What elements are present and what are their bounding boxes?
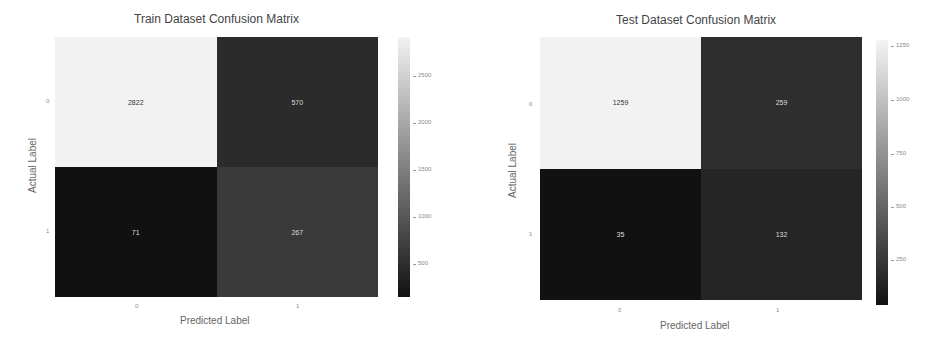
test-y-tick-1: 1 <box>529 231 532 237</box>
test-x-axis-label: Predicted Label <box>660 320 730 331</box>
train-cell-fn: 71 <box>55 167 217 297</box>
train-cbar-tick: 2500 <box>418 72 431 78</box>
test-cell-fn: 35 <box>540 169 701 301</box>
train-x-tick-1: 1 <box>296 303 299 309</box>
train-cell-tn: 2822 <box>55 37 217 167</box>
train-cell-value: 2822 <box>128 99 144 106</box>
test-cell-tn: 1259 <box>540 37 701 169</box>
train-colorbar <box>398 37 410 297</box>
test-cell-value: 259 <box>776 99 788 106</box>
train-confusion-matrix-panel: Train Dataset Confusion Matrix Actual La… <box>0 0 460 343</box>
train-chart-title: Train Dataset Confusion Matrix <box>134 12 299 26</box>
train-cell-value: 267 <box>291 229 303 236</box>
train-cell-value: 570 <box>291 99 303 106</box>
test-cell-fp: 259 <box>701 37 862 169</box>
test-cbar-tick: 500 <box>896 203 906 209</box>
train-heatmap: 2822 570 71 267 <box>55 37 378 297</box>
train-cbar-tick: 2000 <box>418 119 431 125</box>
train-y-axis-label: Actual Label <box>27 138 38 193</box>
test-cbar-tick: 1000 <box>896 96 909 102</box>
train-cell-value: 71 <box>132 229 140 236</box>
test-cbar-tick: 1250 <box>896 42 909 48</box>
train-y-tick-1: 1 <box>46 228 49 234</box>
test-y-axis-label: Actual Label <box>507 143 518 198</box>
test-cbar-tick: 750 <box>896 150 906 156</box>
test-chart-title: Test Dataset Confusion Matrix <box>616 13 776 27</box>
train-y-tick-0: 0 <box>46 98 49 104</box>
train-x-axis-label: Predicted Label <box>180 315 250 326</box>
test-y-tick-0: 0 <box>529 101 532 107</box>
train-cell-fp: 570 <box>217 37 379 167</box>
train-cbar-tick: 500 <box>418 260 428 266</box>
train-x-tick-0: 0 <box>135 303 138 309</box>
test-heatmap: 1259 259 35 132 <box>540 37 862 300</box>
test-confusion-matrix-panel: Test Dataset Confusion Matrix Actual Lab… <box>480 0 938 343</box>
test-cell-tp: 132 <box>701 169 862 301</box>
test-cbar-tick: 250 <box>896 256 906 262</box>
train-cbar-tick: 1500 <box>418 166 431 172</box>
train-cell-tp: 267 <box>217 167 379 297</box>
test-cell-value: 35 <box>617 231 625 238</box>
test-x-tick-1: 1 <box>776 307 779 313</box>
train-cbar-tick: 1000 <box>418 213 431 219</box>
test-cell-value: 1259 <box>613 99 629 106</box>
test-colorbar <box>876 40 888 305</box>
test-cell-value: 132 <box>776 231 788 238</box>
test-x-tick-0: 0 <box>618 307 621 313</box>
